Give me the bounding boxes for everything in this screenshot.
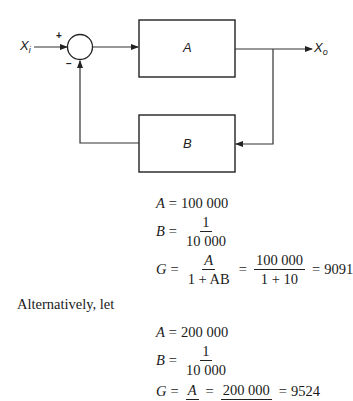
output-label: Xo — [314, 40, 328, 57]
equation-a-case1: A=100 000 — [156, 195, 228, 212]
block-a-label: A — [183, 40, 192, 55]
plus-sign: + — [56, 30, 62, 41]
diagram-lines — [0, 0, 341, 180]
equation-b-case1: B= 110 000 — [156, 214, 231, 249]
input-label: Xi — [20, 38, 31, 55]
equation-a-case2: A=200 000 — [156, 324, 228, 341]
equation-g-case1: G= A1 + AB = 100 0001 + 10 =9091 — [156, 252, 353, 287]
minus-sign: − — [66, 58, 72, 69]
summing-junction — [68, 35, 93, 60]
feedback-block-diagram: Xi Xo + − A B — [0, 0, 341, 180]
block-b-label: B — [183, 136, 192, 151]
equation-b-case2: B= 110 000 — [156, 343, 231, 378]
equation-g-case2: G= A = 200 000 =9524 — [156, 382, 320, 401]
paragraph-alternatively: Alternatively, let — [17, 296, 114, 313]
